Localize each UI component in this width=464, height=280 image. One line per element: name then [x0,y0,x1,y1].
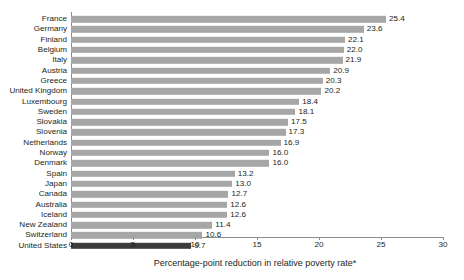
bar-value-label: 16.0 [272,159,288,167]
bar [71,78,323,84]
bar-row: Sweden18.1 [71,107,443,117]
x-axis-tick-label: 25 [376,241,385,249]
bar [71,129,286,135]
bar-value-label: 12.6 [230,200,246,208]
x-axis-tick-label: 10 [190,241,199,249]
bar-value-label: 20.9 [333,67,349,75]
bar-row: Germany23.6 [71,24,443,34]
bar-row: New Zealand11.4 [71,220,443,230]
bar-value-label: 12.6 [230,211,246,219]
bar-value-label: 20.2 [324,87,340,95]
bar-value-label: 21.9 [346,56,362,64]
x-axis-tick-label: 5 [131,241,136,249]
bar-row: Norway16.0 [71,148,443,158]
x-axis-tick-label: 30 [438,241,447,249]
bar-value-label: 18.1 [298,108,314,116]
bar [71,191,228,197]
x-axis-tick-label: 15 [252,241,261,249]
bar-value-label: 22.0 [347,46,363,54]
bar-row: Greece20.3 [71,76,443,86]
bar [71,16,386,22]
bar [71,37,345,43]
bar-row: Netherlands16.9 [71,138,443,148]
category-label: New Zealand [19,221,67,229]
bar-value-label: 12.7 [231,190,247,198]
x-axis-tick-label: 0 [69,241,74,249]
bar-value-label: 16.0 [272,149,288,157]
bar [71,26,364,32]
bar-value-label: 17.3 [289,128,305,136]
bar-row: Slovenia17.3 [71,127,443,137]
bar-value-label: 16.9 [284,139,300,147]
bar-value-label: 10.6 [205,231,221,239]
x-axis-title: Percentage-point reduction in relative p… [0,258,464,268]
category-label: Luxembourg [22,97,67,105]
bar [71,57,343,63]
bar-value-label: 20.3 [326,77,342,85]
category-label: Netherlands [23,139,67,147]
bar [71,119,288,125]
bar-row: Iceland12.6 [71,210,443,220]
category-label: Japan [45,180,67,188]
bar-value-label: 13.0 [235,180,251,188]
bar-row: France25.4 [71,14,443,24]
bar-row: Finland22.1 [71,35,443,45]
category-label: Austria [42,67,67,75]
bar-row: Canada12.7 [71,189,443,199]
bar [71,201,227,207]
bar [71,160,269,166]
bar-row: Slovakia17.5 [71,117,443,127]
category-label: Switzerland [25,231,67,239]
bar-row: Australia12.6 [71,199,443,209]
bar-row: Austria20.9 [71,66,443,76]
bar-value-label: 18.4 [302,97,318,105]
category-label: Slovenia [36,128,67,136]
bar-row: Italy21.9 [71,55,443,65]
bar-row: Luxembourg18.4 [71,96,443,106]
category-label: Germany [34,25,67,33]
bar [71,67,330,73]
bar [71,98,299,104]
bar [71,222,212,228]
bar-value-label: 17.5 [291,118,307,126]
bar-chart: France25.4Germany23.6Finland22.1Belgium2… [0,0,464,280]
category-label: Denmark [34,159,67,167]
x-axis-tick-label: 20 [314,241,323,249]
bar-row: Spain13.2 [71,169,443,179]
category-label: Slovakia [36,118,67,126]
bar [71,232,202,238]
plot-area: France25.4Germany23.6Finland22.1Belgium2… [71,12,443,230]
category-label: Greece [40,77,67,85]
category-label: Australia [36,200,68,208]
bar-value-label: 23.6 [367,25,383,33]
bar-value-label: 13.2 [238,170,254,178]
bar-row: Denmark16.0 [71,158,443,168]
bar-row: Japan13.0 [71,179,443,189]
category-label: France [42,15,67,23]
category-label: Italy [52,56,67,64]
bar-value-label: 11.4 [215,221,230,229]
bar [71,47,344,53]
category-label: Norway [40,149,67,157]
bar [71,150,269,156]
category-label: Iceland [41,211,67,219]
category-label: Sweden [38,108,67,116]
bar [71,212,227,218]
bar-row: Belgium22.0 [71,45,443,55]
bar [71,181,232,187]
category-label: Canada [39,190,67,198]
bar-value-label: 22.1 [348,36,364,44]
bar [71,170,235,176]
bar-value-label: 25.4 [389,15,405,23]
bar [71,140,281,146]
bar-row: United Kingdom20.2 [71,86,443,96]
category-label: United States [18,242,67,250]
category-label: United Kingdom [9,87,67,95]
bar [71,109,295,115]
bar [71,88,321,94]
category-label: Finland [40,36,67,44]
category-label: Belgium [38,46,67,54]
category-label: Spain [46,170,67,178]
